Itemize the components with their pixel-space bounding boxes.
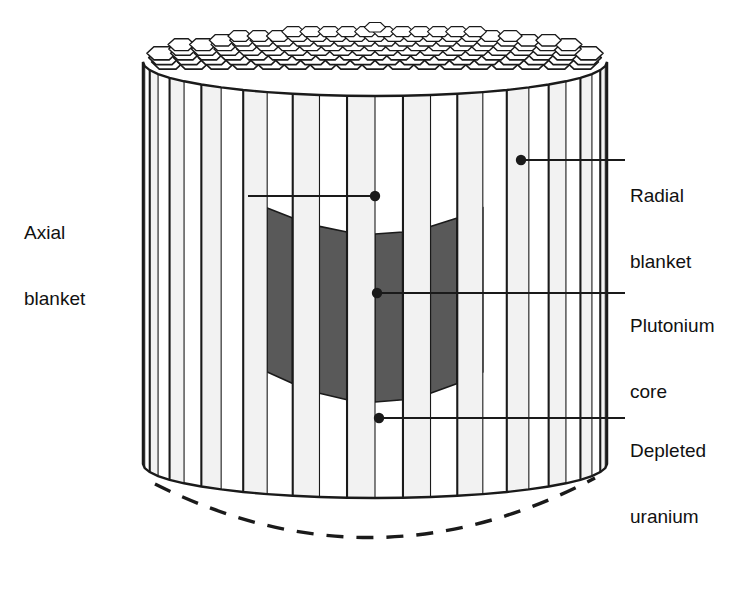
label-axial-blanket: Axial blanket bbox=[24, 178, 85, 354]
leader-dot-depleted-uranium bbox=[374, 413, 384, 423]
label-depleted-uranium-line1: Depleted bbox=[630, 440, 706, 462]
label-depleted-uranium: Depleted uranium bbox=[630, 396, 706, 572]
leader-dot-axial-blanket bbox=[370, 191, 380, 201]
leader-dot-radial-blanket bbox=[516, 155, 526, 165]
leader-dot-plutonium-core bbox=[372, 288, 382, 298]
label-axial-blanket-line2: blanket bbox=[24, 288, 85, 310]
label-plutonium-core-line1: Plutonium bbox=[630, 315, 715, 337]
label-radial-blanket-line2: blanket bbox=[630, 251, 691, 273]
label-radial-blanket-line1: Radial bbox=[630, 185, 691, 207]
hexagonal-top-grid bbox=[147, 23, 603, 70]
label-depleted-uranium-line2: uranium bbox=[630, 506, 706, 528]
diagram-canvas: Axial blanket Radial blanket Plutonium c… bbox=[0, 0, 752, 610]
label-axial-blanket-line1: Axial bbox=[24, 222, 85, 244]
